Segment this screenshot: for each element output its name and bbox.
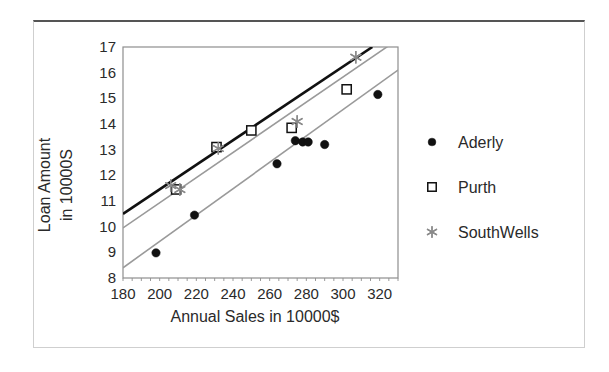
marker-filled-circle [428, 138, 436, 146]
marker-open-square [342, 85, 351, 94]
marker-asterisk [427, 226, 437, 237]
y-tick-label: 11 [100, 192, 116, 209]
legend-label-purth: Purth [458, 179, 496, 196]
x-axis-tick-labels: 180200220240260280300320 [110, 285, 392, 302]
marker-filled-circle [304, 138, 312, 146]
x-tick-label: 200 [147, 285, 172, 302]
x-axis-title: Annual Sales in 10000$ [170, 308, 339, 325]
x-tick-label: 240 [220, 285, 245, 302]
x-tick-label: 300 [330, 285, 355, 302]
trend-line-aderly [123, 70, 398, 268]
marker-filled-circle [273, 160, 281, 168]
y-tick-label: 13 [99, 141, 116, 158]
marker-filled-circle [374, 90, 382, 98]
y-tick-label: 15 [99, 89, 116, 106]
y-tick-label: 8 [108, 269, 116, 286]
y-tick-label: 10 [99, 218, 116, 235]
data-points [152, 51, 382, 257]
x-tick-label: 260 [257, 285, 282, 302]
plot-frame [123, 47, 398, 278]
chart-page: 891011121314151617 180200220240260280300… [0, 0, 609, 372]
y-tick-label: 14 [99, 115, 116, 132]
marker-filled-circle [190, 211, 198, 219]
y-tick-label: 9 [108, 243, 116, 260]
chart-canvas: 891011121314151617 180200220240260280300… [0, 0, 609, 372]
x-tick-label: 220 [184, 285, 209, 302]
trend-line-southwells [123, 39, 398, 228]
chart-legend: AderlyPurthSouthWells [427, 134, 539, 241]
x-tick-label: 180 [110, 285, 135, 302]
marker-open-square [428, 183, 436, 191]
y-axis-tick-labels: 891011121314151617 [99, 38, 116, 286]
marker-filled-circle [291, 136, 299, 144]
series-aderly [152, 90, 382, 257]
marker-open-square [247, 126, 256, 135]
marker-filled-circle [152, 249, 160, 257]
y-axis-title-line2: in 10000S [58, 149, 75, 221]
x-tick-label: 280 [294, 285, 319, 302]
scatter-chart: 891011121314151617 180200220240260280300… [0, 0, 609, 372]
x-tick-label: 320 [367, 285, 392, 302]
y-tick-label: 17 [99, 38, 116, 55]
y-tick-label: 12 [99, 166, 116, 183]
y-tick-label: 16 [99, 64, 116, 81]
marker-filled-circle [320, 140, 328, 148]
marker-open-square [287, 123, 296, 132]
legend-label-aderly: Aderly [458, 134, 503, 151]
legend-label-southwells: SouthWells [458, 224, 539, 241]
y-axis-title-line1: Loan Amount [36, 137, 53, 232]
series-purth [172, 85, 352, 194]
regression-lines [123, 39, 398, 267]
